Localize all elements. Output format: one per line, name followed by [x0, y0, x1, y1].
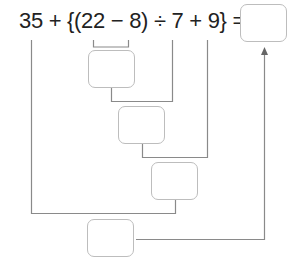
connector-lines	[0, 0, 300, 267]
connector-step4-to-answer	[136, 54, 265, 240]
arrow-up-icon	[261, 47, 268, 55]
connector-step1-to-7	[112, 40, 173, 102]
connector-step2-to-9	[143, 40, 208, 158]
bracket-22-minus-8	[94, 40, 129, 47]
connector-35-to-step3	[32, 40, 176, 214]
calculation-flow-diagram: 35 + {(22 − 8) ÷ 7 + 9} =	[0, 0, 300, 267]
